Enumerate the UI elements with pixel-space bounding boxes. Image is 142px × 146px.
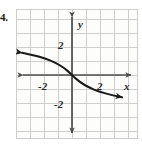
coordinate-graph: 2 -2 -2 2 y x — [16, 9, 138, 139]
figure-root: 4. — [0, 0, 142, 146]
plate-background — [16, 9, 138, 139]
y-axis-tick-label-positive-2: 2 — [58, 40, 64, 51]
problem-number-label: 4. — [0, 9, 16, 25]
y-axis-tick-label-negative-2: -2 — [54, 99, 63, 110]
x-axis-tick-label-negative-2: -2 — [38, 81, 47, 92]
x-axis-tick-label-positive-2: 2 — [97, 81, 103, 92]
graph-canvas — [16, 9, 138, 139]
x-axis-name-label: x — [124, 81, 130, 92]
y-axis-name-label: y — [78, 19, 83, 30]
